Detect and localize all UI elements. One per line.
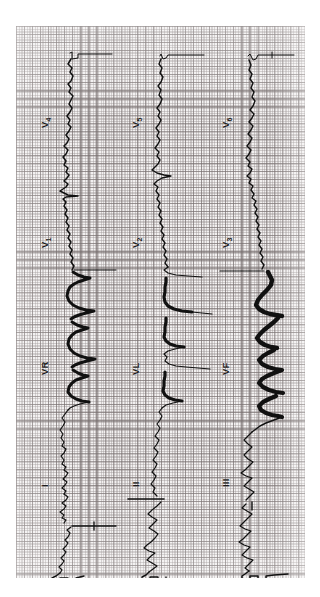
trace-lead-iii	[239, 504, 253, 571]
lead-label-vf: VF	[221, 362, 233, 375]
lead-label-v6: V6	[221, 117, 233, 128]
trace-column-2	[128, 54, 212, 578]
trace-v2-c	[163, 372, 182, 401]
trace-v3-c	[259, 350, 283, 393]
lead-label-vl: VL	[131, 362, 143, 375]
trace-vr	[60, 410, 68, 494]
trace-v3-d	[259, 396, 282, 417]
ecg-page: V4 V1 V5 V2 V6 V3 VR I VL II VF	[0, 0, 320, 597]
trace-v2-lead-in	[164, 267, 202, 277]
trace-v6	[246, 60, 264, 269]
trace-v5	[152, 59, 171, 267]
trace-column-1	[52, 52, 116, 578]
lead-label-v1: V1	[40, 237, 52, 248]
ecg-graph-paper: V4 V1 V5 V2 V6 V3 VR I VL II VF	[16, 26, 305, 578]
trace-v3-b	[257, 318, 278, 348]
trace-v2-c-tail	[162, 401, 182, 408]
trace-column-3	[220, 52, 294, 578]
trace-v1-c	[68, 370, 89, 402]
lead-label-v3: V3	[221, 237, 233, 248]
trace-v2	[164, 278, 192, 312]
calibration-pulse-v6	[248, 54, 294, 60]
lead-label-ii: II	[131, 481, 143, 487]
lead-label-iii: III	[221, 478, 233, 487]
calibration-pulse-lead-i	[52, 573, 84, 578]
ecg-traces	[16, 26, 305, 578]
calibration-pulse-v4	[70, 52, 112, 59]
lead-label-v2: V2	[131, 237, 143, 248]
trace-v2-tail	[192, 312, 212, 314]
trace-v4	[60, 59, 78, 270]
lead-label-i: I	[40, 484, 52, 487]
trace-v1-b	[68, 322, 95, 367]
lead-label-vr: VR	[40, 361, 52, 375]
trace-lead-i	[59, 527, 71, 573]
trace-v1	[67, 272, 94, 319]
trace-vf	[241, 432, 254, 500]
lead-label-v5: V5	[131, 117, 143, 128]
trace-v1-tail	[68, 402, 89, 410]
trace-vl	[151, 408, 162, 496]
lead-label-v4: V4	[40, 117, 52, 128]
trace-vr-b	[60, 494, 68, 523]
trace-v2-b-tail	[164, 347, 210, 369]
calibration-pulse-v5	[160, 54, 204, 59]
trace-lead-ii	[144, 502, 161, 572]
calibration-pulse-lead-iii	[242, 571, 288, 578]
trace-v3-tail	[252, 417, 282, 432]
trace-v2-b	[164, 318, 184, 347]
trace-v3	[256, 272, 282, 316]
calibration-pulse-lead-ii	[142, 572, 166, 578]
